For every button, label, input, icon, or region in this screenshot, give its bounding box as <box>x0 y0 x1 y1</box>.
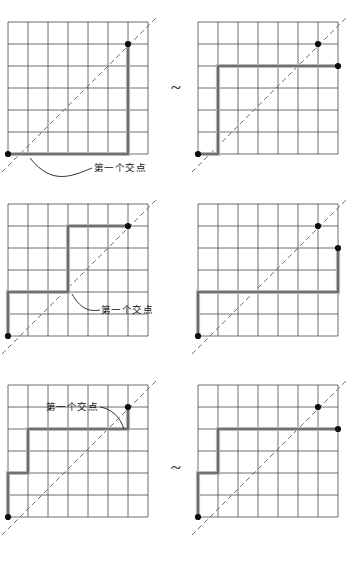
diagonal-line <box>192 16 348 172</box>
dot-start <box>195 151 201 157</box>
figure-root: 第一个交点 ~ <box>0 0 357 565</box>
annotation-leader-line <box>30 158 92 177</box>
dot-start <box>195 514 201 520</box>
dot-end <box>125 223 131 229</box>
dot-end <box>335 245 341 251</box>
annotation-leader-line <box>72 294 100 310</box>
panel-2-right <box>190 190 350 378</box>
panel-row-2: 第一个交点 ~ <box>0 190 357 378</box>
diagonal-line <box>2 198 158 354</box>
dot-reflected-target <box>315 223 321 229</box>
panel-3-right <box>190 377 350 565</box>
dot-end <box>335 426 341 432</box>
lattice-path <box>198 248 338 336</box>
annotation-label-2: 第一个交点 <box>101 304 153 315</box>
diagonal-line <box>192 379 348 535</box>
annotation-label-3: 第一个交点 <box>46 401 98 412</box>
panel-row-1: 第一个交点 ~ <box>0 0 357 188</box>
panel-3-left: 第一个交点 <box>0 377 160 565</box>
dot-end <box>125 41 131 47</box>
diagonal-line <box>2 16 158 172</box>
dot-start <box>195 333 201 339</box>
panel-1-right <box>190 0 350 188</box>
diagonal-line <box>192 198 348 354</box>
dot-start <box>5 151 11 157</box>
dot-reflected-target <box>315 404 321 410</box>
dot-reflected-target <box>315 41 321 47</box>
separator-tilde-1: ~ <box>163 78 189 97</box>
annotation-label-1: 第一个交点 <box>94 162 146 173</box>
dot-end <box>125 404 131 410</box>
endpoint-dots <box>195 223 341 339</box>
panel-1-left: 第一个交点 <box>0 0 160 188</box>
dot-end <box>335 63 341 69</box>
panel-2-left: 第一个交点 <box>0 190 160 378</box>
panel-row-3: 第一个交点 ~ <box>0 377 357 565</box>
dot-start <box>5 514 11 520</box>
dot-start <box>5 333 11 339</box>
